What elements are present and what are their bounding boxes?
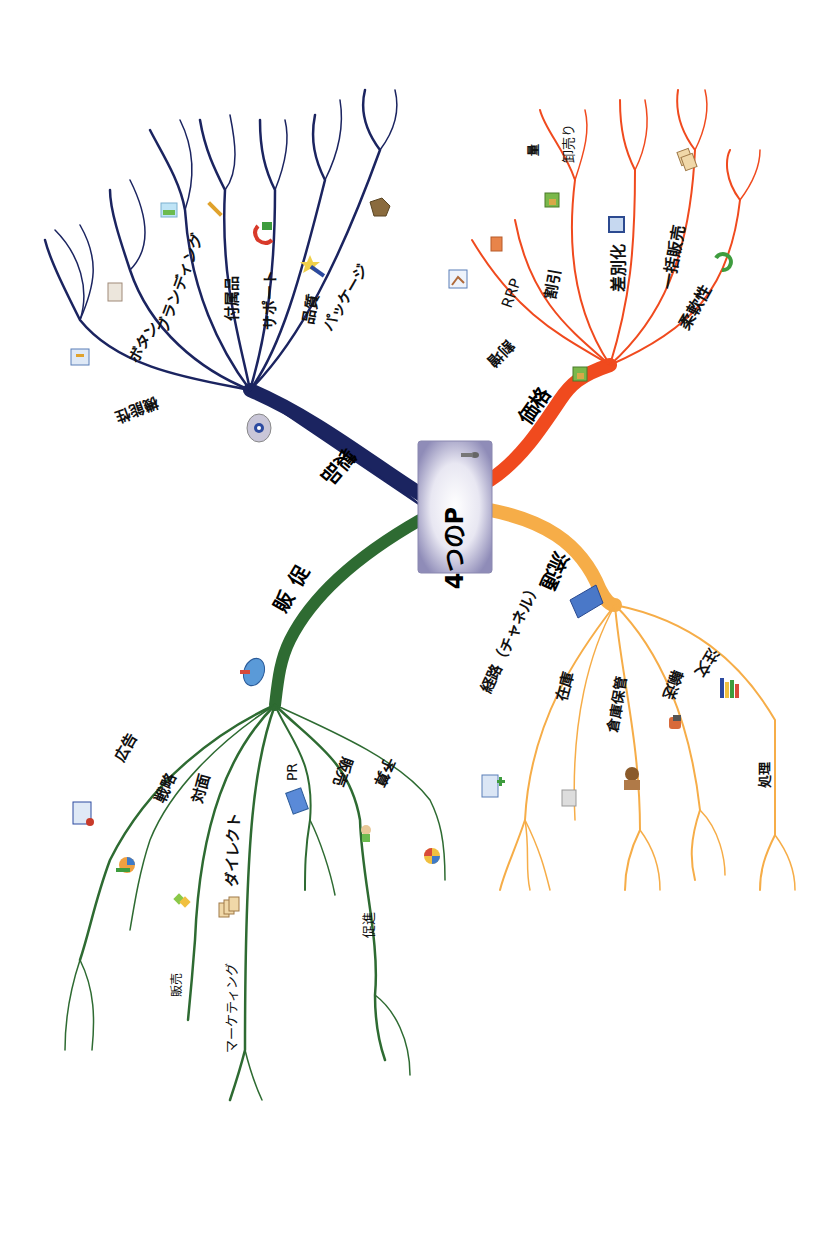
- pie-chart-stack-icon: [116, 857, 135, 873]
- place-item-label: 倉庫保管: [604, 675, 630, 734]
- image-icon: [161, 203, 177, 217]
- package-icon: [370, 198, 390, 216]
- promotion-item-label: PR: [284, 763, 300, 781]
- document-icon: [108, 283, 122, 301]
- promotion-item-label: 予算: [370, 755, 399, 790]
- chart-icon: [449, 270, 467, 288]
- product-item-label: 付属品: [223, 276, 241, 321]
- shopping-cart-icon: [240, 655, 268, 688]
- price-item-label: 差別化: [609, 244, 628, 292]
- promotion-item-label: 戦略: [151, 770, 180, 806]
- money-icon: [545, 193, 559, 207]
- presentation-icon: [73, 802, 94, 826]
- promotion-item-label: 販売: [169, 973, 184, 997]
- calculator-icon: [491, 237, 502, 251]
- price-item-label: 量: [527, 144, 541, 156]
- building-icon: [570, 585, 603, 618]
- money-icon: [573, 367, 587, 381]
- product-item-label: パッケージ: [319, 261, 372, 335]
- promotion-item-label: 広告: [110, 730, 141, 765]
- truck-icon: [669, 715, 681, 729]
- wrench-box-icon: [71, 349, 89, 365]
- promotion-item-label: 対面: [188, 772, 213, 807]
- org-chart-icon: [482, 775, 505, 797]
- newspaper-icon: [286, 788, 309, 814]
- product-item-label: サポート: [261, 270, 279, 330]
- mind-map: 4つのP 製品 価格 流通 販促 機能性 ボタン ブランディング 付属品 サポー…: [0, 0, 840, 1233]
- place-item-label: 在庫: [553, 670, 578, 704]
- bar-chart-icon: [720, 678, 739, 698]
- pie-chart-icon: [424, 848, 440, 864]
- price-item-label: 一括販売: [659, 224, 689, 290]
- promotion-branch: [65, 520, 445, 1100]
- square-icon: [609, 217, 624, 232]
- place-item-label: 経路（チャネル）: [477, 580, 544, 696]
- documents-icon: [219, 897, 239, 917]
- place-branch: [490, 510, 795, 890]
- list-icon: [562, 790, 576, 806]
- product-item-label: 品質: [300, 293, 323, 326]
- product-item-label: 機能性: [112, 394, 160, 426]
- price-item-label: 割引: [542, 268, 565, 301]
- phone-icon: [255, 222, 272, 243]
- promotion-item-label: ダイレクト: [223, 812, 244, 888]
- promotion-item-label: 促進: [361, 912, 376, 938]
- puzzle-icon: [173, 893, 190, 907]
- promotion-item-label: マーケティング: [224, 963, 239, 1053]
- center-title: 4つのP: [441, 507, 469, 589]
- price-item-label: 割増: [484, 337, 518, 371]
- price-item-label: 柔軟性: [675, 282, 716, 334]
- wrench-icon: [207, 201, 223, 217]
- presenter-icon: [361, 825, 371, 842]
- place-item-label: 処理: [757, 762, 772, 789]
- cd-icon: [247, 414, 271, 442]
- price-item-label: 卸売り: [561, 124, 576, 163]
- place-item-label: 注文: [691, 645, 722, 681]
